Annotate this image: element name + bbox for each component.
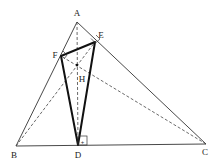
- altitude-cf: [61, 56, 206, 144]
- geometry-diagram: + A B C D E F H: [0, 0, 218, 168]
- label-e: E: [98, 30, 104, 40]
- label-f: F: [52, 50, 57, 60]
- label-b: B: [11, 150, 17, 160]
- label-d: D: [75, 150, 82, 160]
- right-angle-plus-d: +: [81, 139, 85, 145]
- side-bc: [16, 144, 206, 146]
- label-h: H: [79, 74, 86, 84]
- orthocenter-h-point: [76, 64, 79, 67]
- side-ac: [77, 22, 206, 144]
- side-ab: [16, 22, 77, 146]
- label-c: C: [202, 147, 208, 157]
- label-a: A: [74, 8, 81, 18]
